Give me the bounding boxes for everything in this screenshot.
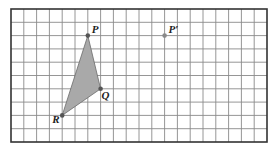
point-label: P′ <box>169 23 179 35</box>
point-q: Q <box>98 87 109 101</box>
point-label: R <box>51 113 59 125</box>
point-label: Q <box>102 89 110 101</box>
point-marker <box>86 33 91 38</box>
point-marker <box>60 113 65 118</box>
point-label: P <box>92 23 99 35</box>
grid-lines <box>11 9 267 142</box>
point-marker <box>162 33 167 38</box>
translation-grid-diagram: PQRP′ <box>0 0 269 146</box>
